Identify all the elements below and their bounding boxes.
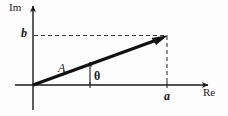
angle-theta-label: θ (94, 70, 100, 82)
vector-A-arrowhead (152, 35, 169, 45)
real-axis-label: Re (203, 87, 215, 98)
complex-plane-phasor-diagram: Im Re b a A θ (0, 0, 228, 116)
imaginary-axis-label: Im (9, 2, 21, 13)
imaginary-component-label: b (21, 27, 27, 39)
diagram-canvas (0, 0, 228, 116)
vector-magnitude-label: A (58, 62, 65, 74)
real-component-label: a (164, 90, 170, 102)
